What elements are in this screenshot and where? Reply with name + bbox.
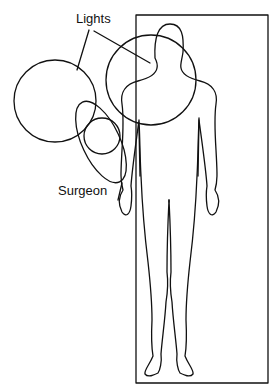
diagram-canvas [0, 0, 280, 390]
lights-label: Lights [76, 11, 111, 26]
light-right [106, 35, 196, 125]
lights-leader-left [77, 30, 89, 70]
surgeon-shoulders [65, 94, 137, 190]
surgeon-label: Surgeon [58, 183, 107, 198]
surgeon-head [84, 118, 120, 154]
